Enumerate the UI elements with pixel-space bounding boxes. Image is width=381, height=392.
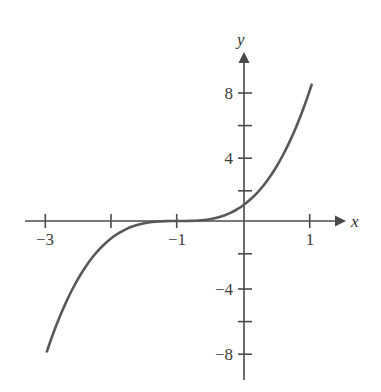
y-tick-label--8: −8 xyxy=(215,346,233,363)
x-tick-label-1: 1 xyxy=(306,231,315,248)
y-axis-ticks xyxy=(238,93,252,354)
curve-cubic xyxy=(47,85,312,352)
y-tick-label-4: 4 xyxy=(225,150,234,167)
chart-figure: −3 −1 1 8 4 −4 −8 x y xyxy=(0,0,381,392)
y-tick-label--4: −4 xyxy=(215,281,233,298)
x-tick-label--1: −1 xyxy=(168,231,186,248)
x-axis-label: x xyxy=(351,213,359,230)
y-axis-label: y xyxy=(237,31,245,48)
y-tick-label-8: 8 xyxy=(225,85,234,102)
cartesian-plot xyxy=(0,0,381,392)
x-tick-label--3: −3 xyxy=(36,231,54,248)
